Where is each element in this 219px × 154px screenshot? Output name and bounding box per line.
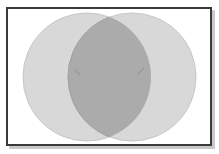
venn-diagram-figure: Two overlapping light gray circles formi… <box>0 0 219 154</box>
venn-diagram-canvas <box>0 0 219 154</box>
venn-content-group <box>23 13 196 141</box>
